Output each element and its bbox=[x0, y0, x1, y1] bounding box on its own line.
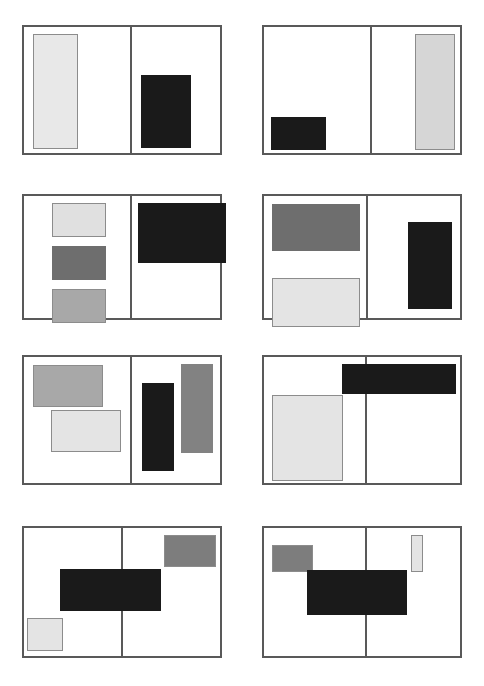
panel-4-divider bbox=[366, 196, 368, 318]
panel-2-shape-pale-tall-right bbox=[415, 34, 455, 150]
panel-1-shape-black-block bbox=[141, 75, 191, 148]
panel-7-shape-black-banner-crossing-divider bbox=[60, 569, 161, 611]
panel-3-content bbox=[24, 196, 220, 318]
panel-8-shape-pale-tall-narrow bbox=[411, 535, 423, 572]
panel-3 bbox=[22, 194, 222, 320]
panel-8-shape-gray-rect-top-left bbox=[272, 545, 313, 572]
panel-6-shape-black-banner-crossing-divider bbox=[342, 364, 456, 394]
panel-5-content bbox=[24, 357, 220, 483]
panel-7-shape-pale-square bbox=[27, 618, 63, 651]
figure-canvas bbox=[0, 0, 484, 686]
panel-3-shape-mid-gray-rect bbox=[52, 246, 106, 280]
panel-2 bbox=[262, 25, 462, 155]
panel-3-shape-black-wide bbox=[138, 203, 226, 263]
panel-5 bbox=[22, 355, 222, 485]
panel-1-shape-pale-tall-left bbox=[33, 34, 78, 149]
panel-5-shape-gray-tall bbox=[181, 364, 213, 453]
panel-2-divider bbox=[370, 27, 372, 153]
panel-1 bbox=[22, 25, 222, 155]
panel-7-shape-gray-rect-top-right bbox=[164, 535, 216, 567]
panel-2-shape-black-block bbox=[271, 117, 326, 150]
panel-3-shape-pale-rect bbox=[52, 203, 106, 237]
panel-3-shape-light-gray-rect bbox=[52, 289, 106, 323]
panel-6-shape-pale-square bbox=[272, 395, 343, 481]
panel-3-divider bbox=[130, 196, 132, 318]
panel-4-content bbox=[264, 196, 460, 318]
panel-5-divider bbox=[130, 357, 132, 483]
panel-4-shape-mid-gray-wide bbox=[272, 204, 360, 251]
panel-5-shape-light-gray-rect bbox=[33, 365, 103, 407]
panel-5-shape-black-tall bbox=[142, 383, 174, 471]
panel-4 bbox=[262, 194, 462, 320]
panel-2-content bbox=[264, 27, 460, 153]
panel-8-shape-black-banner-crossing-divider bbox=[307, 570, 407, 615]
panel-4-shape-pale-wide bbox=[272, 278, 360, 327]
panel-5-shape-pale-rect bbox=[51, 410, 121, 452]
panel-1-divider bbox=[130, 27, 132, 153]
panel-1-content bbox=[24, 27, 220, 153]
panel-4-shape-black-tall bbox=[408, 222, 452, 309]
